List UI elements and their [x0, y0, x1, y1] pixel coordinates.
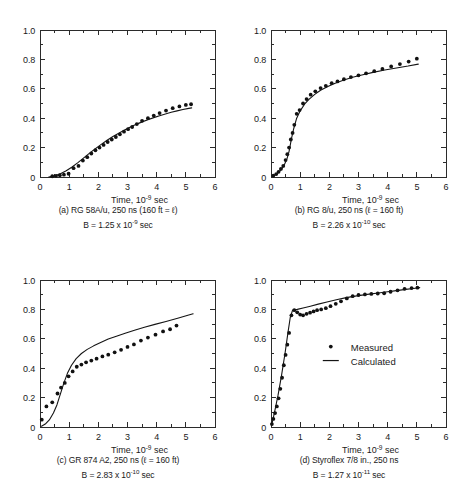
y-ticklabel: 0.8 — [254, 305, 266, 315]
panel-b-caption-line2: B = 2.26 x 10-10 sec — [231, 216, 467, 231]
plot-c: 012345600.20.40.60.81.0Time, 10-9 sec — [0, 250, 236, 455]
data-point — [334, 302, 338, 306]
x-ticklabel: 5 — [414, 182, 419, 192]
data-point — [89, 359, 93, 363]
y-ticklabel: 1.0 — [254, 26, 266, 36]
x-ticklabel: 3 — [356, 432, 361, 442]
data-point — [171, 106, 175, 110]
legend-label-measured: Measured — [351, 342, 393, 353]
y-ticklabel: 0.6 — [254, 84, 266, 94]
data-point — [75, 365, 79, 369]
data-point — [324, 306, 328, 310]
y-ticklabel: 1.0 — [23, 26, 35, 36]
plot-frame — [271, 30, 446, 177]
x-ticklabel: 6 — [444, 182, 449, 192]
data-point — [308, 311, 312, 315]
x-ticklabel: 6 — [213, 432, 218, 442]
y-ticklabel: 0 — [261, 423, 266, 433]
x-ticklabel: 0 — [38, 432, 43, 442]
legend-marker-measured — [329, 345, 333, 349]
measured-points — [270, 286, 419, 426]
y-ticklabel: 0.4 — [254, 114, 266, 124]
x-ticklabel: 1 — [67, 182, 72, 192]
x-ticklabel: 4 — [154, 182, 159, 192]
panel-c-caption-line1: (c) GR 874 A2, 250 ns (ℓ = 160 ft) — [0, 454, 236, 466]
data-point — [407, 60, 411, 64]
panel-a-caption-line1: (a) RG 58A/u, 250 ns (160 ft = ℓ) — [0, 204, 236, 216]
data-point — [389, 65, 393, 69]
data-point — [71, 370, 75, 374]
plot-d: 012345600.20.40.60.81.0Time, 10-9 secMea… — [231, 250, 467, 455]
x-ticklabel: 2 — [96, 432, 101, 442]
data-point — [84, 360, 88, 364]
x-ticklabel: 3 — [356, 182, 361, 192]
panel-c-caption-line2: B = 2.83 x 10-10 sec — [0, 466, 236, 481]
plot-frame — [271, 280, 446, 427]
data-point — [56, 392, 60, 396]
data-point — [40, 418, 44, 422]
data-point — [305, 312, 309, 316]
x-ticklabel: 6 — [213, 182, 218, 192]
data-point — [45, 405, 49, 409]
calculated-curve — [272, 64, 418, 176]
y-ticklabel: 0.4 — [254, 364, 266, 374]
y-ticklabel: 0.4 — [23, 364, 35, 374]
data-point — [339, 299, 343, 303]
y-ticklabel: 1.0 — [254, 276, 266, 286]
data-point — [132, 342, 136, 346]
x-ticklabel: 2 — [327, 432, 332, 442]
data-point — [139, 339, 143, 343]
y-ticklabel: 0.8 — [254, 55, 266, 65]
x-ticklabel: 1 — [67, 432, 72, 442]
data-point — [319, 308, 323, 312]
data-point — [415, 57, 419, 61]
data-point — [67, 172, 71, 176]
figure-root: 012345600.20.40.60.81.0Time, 10-9 sec (a… — [0, 0, 473, 502]
y-ticklabel: 0.8 — [23, 55, 35, 65]
plot-frame — [40, 280, 215, 427]
data-point — [312, 310, 316, 314]
data-point — [178, 105, 182, 109]
measured-points — [271, 57, 418, 178]
y-ticklabel: 0.4 — [23, 114, 35, 124]
plot-b: 012345600.20.40.60.81.0Time, 10-9 sec — [231, 0, 467, 205]
x-ticklabel: 1 — [298, 432, 303, 442]
legend: MeasuredCalculated — [323, 342, 396, 367]
data-point — [113, 350, 117, 354]
data-point — [62, 173, 66, 177]
x-ticklabel: 1 — [298, 182, 303, 192]
data-point — [398, 62, 402, 66]
y-ticklabel: 0 — [30, 173, 35, 183]
x-ticklabel: 4 — [154, 432, 159, 442]
panel-c: 012345600.20.40.60.81.0Time, 10-9 sec (c… — [0, 250, 236, 501]
data-point — [106, 353, 110, 357]
y-ticklabel: 0 — [261, 173, 266, 183]
calculated-curve — [49, 108, 192, 177]
panel-d-caption-line2: B = 1.27 x 10-11 sec — [231, 466, 467, 481]
y-ticklabel: 0.8 — [23, 305, 35, 315]
x-ticklabel: 0 — [38, 182, 43, 192]
data-point — [309, 93, 313, 97]
data-point — [101, 355, 105, 359]
y-ticklabel: 0 — [30, 423, 35, 433]
data-point — [315, 308, 319, 312]
y-ticklabel: 0.2 — [23, 393, 35, 403]
x-ticklabel: 5 — [183, 182, 188, 192]
x-ticklabel: 0 — [269, 432, 274, 442]
data-point — [126, 345, 130, 349]
data-point — [189, 102, 193, 106]
data-point — [77, 164, 81, 168]
x-ticklabel: 0 — [269, 182, 274, 192]
x-ticklabel: 3 — [125, 182, 130, 192]
data-point — [95, 357, 99, 361]
data-point — [50, 400, 54, 404]
y-ticklabel: 0.2 — [23, 143, 35, 153]
y-ticklabel: 1.0 — [23, 276, 35, 286]
y-ticklabel: 0.2 — [254, 143, 266, 153]
legend-label-calculated: Calculated — [351, 356, 396, 367]
panel-d: 012345600.20.40.60.81.0Time, 10-9 secMea… — [231, 250, 467, 501]
panel-b-caption-line1: (b) RG 8/u, 250 ns (ℓ = 160 ft) — [231, 204, 467, 216]
panel-d-caption-line1: (d) Styroflex 7/8 in., 250 ns — [231, 454, 467, 466]
panel-a: 012345600.20.40.60.81.0Time, 10-9 sec (a… — [0, 0, 236, 251]
y-ticklabel: 0.2 — [254, 393, 266, 403]
